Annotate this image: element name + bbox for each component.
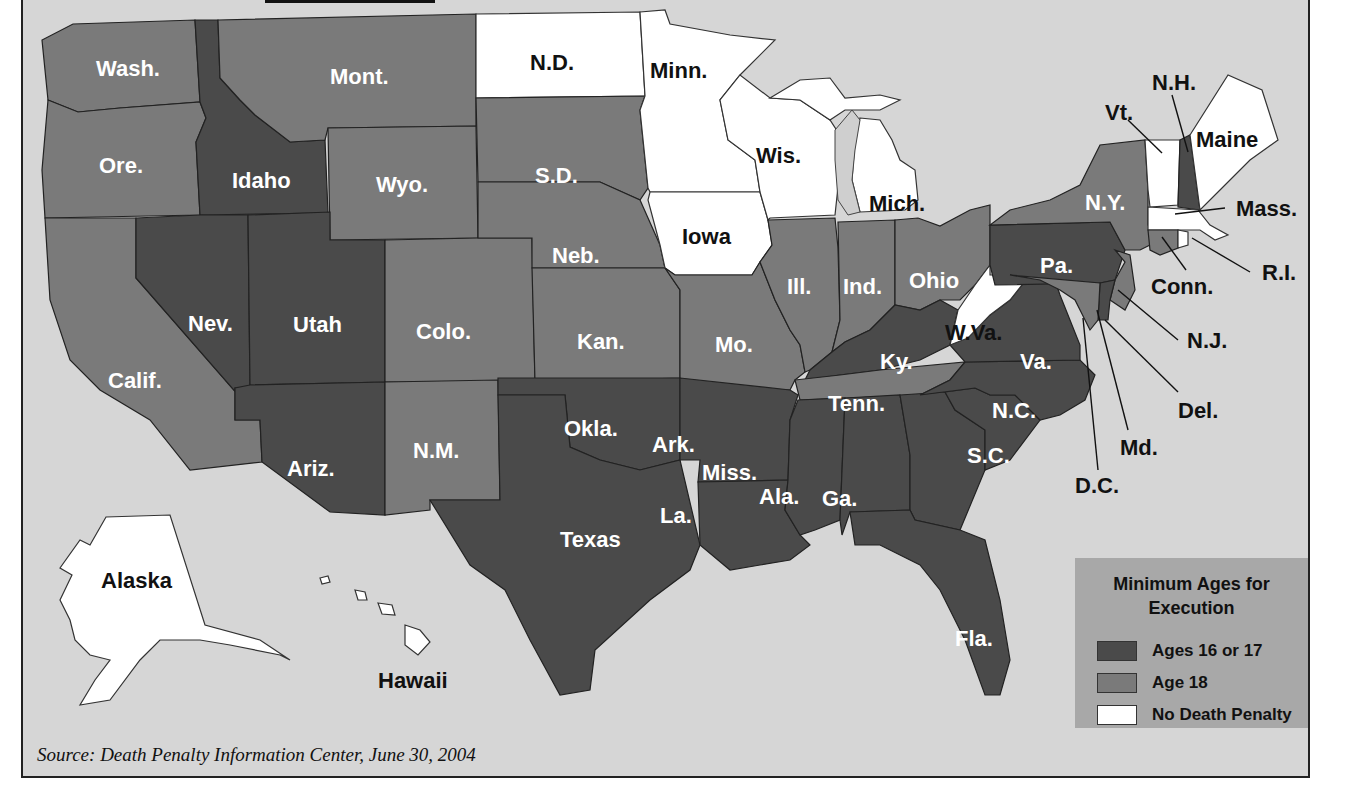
state-conn	[1148, 230, 1178, 255]
label-maine: Maine	[1196, 129, 1258, 151]
legend-title: Minimum Ages for Execution	[1075, 572, 1308, 620]
label-minn: Minn.	[650, 60, 707, 82]
label-tenn: Tenn.	[828, 393, 885, 415]
label-nc: N.C.	[992, 400, 1036, 422]
label-dc: D.C.	[1075, 475, 1119, 497]
legend-item-age-18: Age 18	[1097, 672, 1208, 694]
swatch-dark	[1097, 641, 1137, 661]
label-hawaii: Hawaii	[378, 670, 448, 692]
label-wis: Wis.	[756, 145, 801, 167]
label-fla: Fla.	[955, 628, 993, 650]
state-kan	[532, 268, 680, 382]
label-ill: Ill.	[787, 276, 811, 298]
label-nm: N.M.	[413, 440, 459, 462]
label-ri: R.I.	[1262, 262, 1296, 284]
state-ri	[1178, 230, 1188, 248]
legend-label: Age 18	[1152, 673, 1208, 693]
label-iowa: Iowa	[682, 226, 731, 248]
legend: Minimum Ages for Execution Ages 16 or 17…	[1075, 558, 1308, 728]
label-conn: Conn.	[1151, 276, 1213, 298]
legend-title-line1: Minimum Ages for	[1075, 572, 1308, 596]
legend-item-ages-16-17: Ages 16 or 17	[1097, 640, 1263, 662]
label-colo: Colo.	[416, 321, 471, 343]
label-texas: Texas	[560, 529, 621, 551]
label-ind: Ind.	[843, 276, 882, 298]
label-ore: Ore.	[99, 155, 143, 177]
state-alaska	[60, 515, 290, 705]
label-nj: N.J.	[1187, 330, 1227, 352]
state-fla	[850, 510, 1010, 695]
label-calif: Calif.	[108, 370, 162, 392]
swatch-white	[1097, 705, 1137, 725]
legend-title-line2: Execution	[1075, 596, 1308, 620]
state-miss	[785, 398, 845, 535]
label-ohio: Ohio	[909, 270, 959, 292]
label-miss: Miss.	[702, 462, 757, 484]
label-ark: Ark.	[652, 434, 695, 456]
legend-label: No Death Penalty	[1152, 705, 1292, 725]
label-wash: Wash.	[96, 58, 160, 80]
hawaii-island-3	[378, 603, 395, 615]
hawaii-island-1	[320, 576, 330, 584]
swatch-mid	[1097, 673, 1137, 693]
label-idaho: Idaho	[232, 170, 291, 192]
label-vt: Vt.	[1105, 102, 1133, 124]
label-nd: N.D.	[530, 52, 574, 74]
state-vt	[1145, 140, 1180, 207]
label-sd: S.D.	[535, 165, 578, 187]
label-va: Va.	[1020, 351, 1052, 373]
state-colo	[385, 238, 535, 382]
hawaii-island-2	[355, 590, 367, 600]
label-nev: Nev.	[188, 313, 233, 335]
label-wyo: Wyo.	[376, 174, 428, 196]
label-mass: Mass.	[1236, 198, 1297, 220]
legend-label: Ages 16 or 17	[1152, 641, 1263, 661]
label-alaska: Alaska	[101, 570, 172, 592]
label-del: Del.	[1178, 400, 1218, 422]
label-utah: Utah	[293, 314, 342, 336]
label-okla: Okla.	[564, 418, 618, 440]
label-mich: Mich.	[869, 193, 925, 215]
label-ala: Ala.	[759, 486, 799, 508]
label-mont: Mont.	[330, 66, 389, 88]
label-wva: W.Va.	[945, 322, 1002, 344]
label-pa: Pa.	[1040, 255, 1073, 277]
label-ny: N.Y.	[1085, 192, 1125, 214]
label-sc: S.C.	[967, 445, 1010, 467]
label-md: Md.	[1120, 437, 1158, 459]
hawaii-island-4	[405, 625, 430, 655]
legend-item-no-death-penalty: No Death Penalty	[1097, 704, 1292, 726]
label-ky: Ky.	[880, 351, 913, 373]
label-kan: Kan.	[577, 331, 625, 353]
label-mo: Mo.	[715, 334, 753, 356]
source-note: Source: Death Penalty Information Center…	[37, 744, 476, 766]
label-neb: Neb.	[552, 245, 600, 267]
label-ga: Ga.	[822, 488, 857, 510]
label-ariz: Ariz.	[287, 458, 335, 480]
label-la: La.	[660, 505, 692, 527]
label-nh: N.H.	[1152, 72, 1196, 94]
